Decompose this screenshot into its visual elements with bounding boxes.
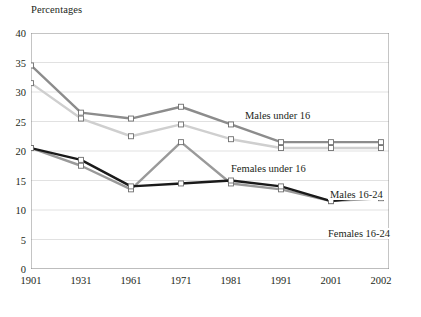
y-tick-label-0: 0 xyxy=(0,264,26,275)
series-label-females-16-24: Females 16-24 xyxy=(326,228,392,239)
y-tick-label-5: 5 xyxy=(0,234,26,245)
series-label-females-under-16: Females under 16 xyxy=(229,163,308,174)
chart-container: Percentages 0510152025303540 19011931196… xyxy=(0,0,421,317)
series-label-males-under-16: Males under 16 xyxy=(243,110,312,121)
x-tick-label-2002: 2002 xyxy=(371,275,392,286)
data-point-marker xyxy=(129,134,134,139)
x-tick-label-2001: 2001 xyxy=(321,275,342,286)
data-point-marker xyxy=(279,184,284,189)
y-tick-label-40: 40 xyxy=(0,28,26,39)
data-point-marker xyxy=(229,122,234,127)
y-tick-label-35: 35 xyxy=(0,57,26,68)
data-point-marker xyxy=(229,137,234,142)
series-label-males-16-24: Males 16-24 xyxy=(328,189,385,200)
data-point-marker xyxy=(31,146,34,151)
y-tick-label-20: 20 xyxy=(0,146,26,157)
data-point-marker xyxy=(329,146,334,151)
data-point-marker xyxy=(229,178,234,183)
y-tick-label-15: 15 xyxy=(0,175,26,186)
data-point-marker xyxy=(279,140,284,145)
data-point-marker xyxy=(79,163,84,168)
y-tick-label-30: 30 xyxy=(0,87,26,98)
data-point-marker xyxy=(179,140,184,145)
x-tick-label-1971: 1971 xyxy=(171,275,192,286)
data-point-marker xyxy=(129,116,134,121)
x-tick-label-1961: 1961 xyxy=(121,275,142,286)
y-tick-label-25: 25 xyxy=(0,116,26,127)
x-tick-label-1991: 1991 xyxy=(271,275,292,286)
data-point-marker xyxy=(79,157,84,162)
chart-title: Percentages xyxy=(31,4,82,15)
data-point-marker xyxy=(179,122,184,127)
data-point-marker xyxy=(79,110,84,115)
data-point-marker xyxy=(379,140,384,145)
data-point-marker xyxy=(179,104,184,109)
data-point-marker xyxy=(379,146,384,151)
data-point-marker xyxy=(279,146,284,151)
x-tick-label-1981: 1981 xyxy=(221,275,242,286)
data-point-marker xyxy=(329,140,334,145)
x-tick-label-1901: 1901 xyxy=(21,275,42,286)
data-point-marker xyxy=(31,63,34,68)
data-point-marker xyxy=(79,116,84,121)
x-tick-label-1931: 1931 xyxy=(71,275,92,286)
data-point-marker xyxy=(179,181,184,186)
y-tick-label-10: 10 xyxy=(0,205,26,216)
data-point-marker xyxy=(31,81,34,86)
data-point-marker xyxy=(129,184,134,189)
